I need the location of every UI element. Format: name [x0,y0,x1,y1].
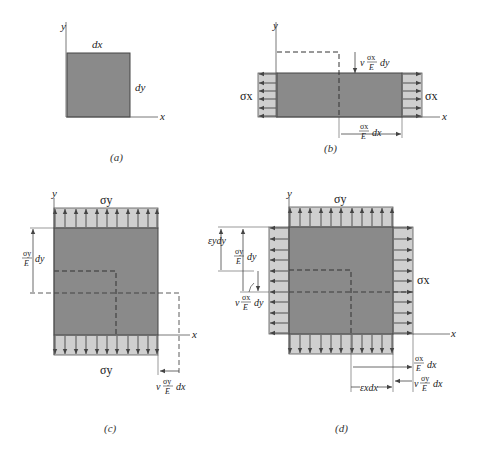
contraction-den: E [164,387,170,396]
stress-block-left [258,73,277,117]
contraction-suffix: dx [176,381,186,392]
elongation-den: E [360,132,366,141]
contraction-y-suffix: dy [254,297,264,308]
contraction-y-den: E [242,303,248,312]
y-axis-label: y [272,19,278,31]
stress-block-right [402,73,422,117]
panel-b: y x v σx E dy σx E dx σx σx (b) [240,19,447,155]
stress-block-bottom [54,335,158,355]
stress-label-top: σy [334,192,346,206]
stress-strain-figure: y x dx dy (a) y x v [0,0,478,455]
stress-label-left: σx [240,89,252,103]
stress-block-right [393,227,413,334]
x-axis-label: x [159,110,165,122]
panel-caption: (d) [335,422,348,435]
x-axis-label: x [191,328,197,340]
elongation-num: σx [360,122,368,131]
stress-label-right: σx [417,273,429,287]
stress-block-left [269,227,289,334]
x-axis-label: x [450,327,456,339]
deformed-element [54,228,158,335]
y-axis-label: y [286,187,292,199]
panel-d: y x σy σx εydy σy E dy v σx E dy σx E dx… [208,187,456,435]
contraction-x-suffix: dx [433,378,443,389]
stress-block-top [54,208,158,228]
panel-c: y x σy E dy v σy E dx σy σy (c) [22,187,197,435]
elongation-suffix: dx [372,127,382,138]
contraction-y-prefix: v [235,297,240,308]
deformed-element [289,227,393,334]
leader-line [249,283,254,292]
elongation-x-num: σx [415,354,423,363]
strain-y-label: εydy [208,235,226,246]
y-axis-label: y [60,20,66,32]
elongation-x-den: E [415,364,421,373]
elongation-y-suffix: dy [247,251,257,262]
panel-caption: (a) [110,151,123,164]
contraction-num: σx [367,53,375,62]
elongation-suffix: dy [35,253,45,264]
contraction-x-num: σy [421,374,429,383]
elongation-den: E [23,259,29,268]
contraction-num: σy [163,377,171,386]
panel-caption: (c) [104,422,117,435]
contraction-x-prefix: v [414,378,419,389]
contraction-x-den: E [421,384,427,393]
stress-label-bottom: σy [100,363,112,377]
element-square [67,53,130,117]
stress-label-right: σx [425,89,437,103]
y-axis-label: y [51,187,57,199]
elongation-num: σy [23,249,31,258]
width-label: dx [92,38,103,50]
strain-x-label: εxdx [360,382,378,393]
elongation-y-den: E [235,257,241,266]
contraction-den: E [368,63,374,72]
contraction-prefix: v [156,381,161,392]
elongation-y-num: σy [235,247,243,256]
elongation-x-suffix: dx [427,359,437,370]
panel-a: y x dx dy (a) [60,20,165,164]
stress-label-top: σy [100,193,112,207]
x-axis-label: x [441,110,447,122]
contraction-suffix: dy [380,57,390,68]
panel-caption: (b) [324,142,337,155]
contraction-prefix: v [360,57,365,68]
height-label: dy [135,81,146,93]
contraction-y-num: σx [242,293,250,302]
